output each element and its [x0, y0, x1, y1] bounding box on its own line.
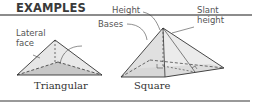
label-height: Height	[112, 5, 140, 15]
label-slant-line1: Slant	[197, 5, 219, 15]
label-lateral-line1: Lateral	[16, 28, 46, 38]
caption-triangular: Triangular	[34, 80, 88, 91]
label-slant-line2: height	[197, 15, 224, 25]
label-lateral-line2: face	[16, 38, 34, 48]
bottom-divider	[0, 100, 250, 102]
caption-square: Square	[134, 80, 170, 91]
label-lateral-face: Lateral face	[16, 28, 46, 48]
label-bases: Bases	[98, 19, 123, 29]
label-slant-height: Slant height	[197, 5, 224, 25]
